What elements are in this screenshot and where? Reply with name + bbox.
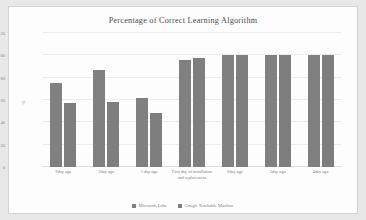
bar[interactable] <box>322 55 334 167</box>
bar-group <box>213 33 256 167</box>
y-axis-tick-label: 40 <box>0 120 5 125</box>
x-axis-tick-label: 5day ago <box>256 169 299 181</box>
plot-area <box>42 33 342 167</box>
x-axis-tick-label: 1 day ago <box>128 169 171 181</box>
bar-group <box>85 33 128 167</box>
bar-group <box>171 33 214 167</box>
bar[interactable] <box>50 83 62 167</box>
chart-legend: Microsoft LobeGoogle Teachable Machine <box>9 203 357 208</box>
legend-item[interactable]: Google Teachable Machine <box>178 203 234 208</box>
legend-swatch-icon <box>132 204 136 208</box>
y-axis-tick-label: 80 <box>0 75 5 80</box>
legend-label: Google Teachable Machine <box>184 203 233 208</box>
x-axis-tick-label: 2day ago <box>85 169 128 181</box>
bar-group <box>42 33 85 167</box>
bar[interactable] <box>265 55 277 167</box>
bar[interactable] <box>193 58 205 167</box>
y-axis-tick-label: 120 <box>0 31 5 36</box>
x-axis-tick-label: 9day ago <box>42 169 85 181</box>
x-axis-tick-labels: 9day ago2day ago1 day agoFirst day of in… <box>42 169 342 181</box>
y-axis-tick-label: 0 <box>3 165 5 170</box>
bar[interactable] <box>150 113 162 167</box>
bar[interactable] <box>179 60 191 167</box>
chart-card: Percentage of Correct Learning Algorithm… <box>8 6 358 214</box>
y-axis-tick-label: 20 <box>0 142 5 147</box>
bar-group <box>128 33 171 167</box>
bar[interactable] <box>279 55 291 167</box>
bars-layer <box>42 33 342 167</box>
bar[interactable] <box>236 55 248 167</box>
y-axis-tick-labels: 120100806040200 <box>0 33 7 167</box>
bar[interactable] <box>93 70 105 167</box>
chart-title: Percentage of Correct Learning Algorithm <box>9 16 357 25</box>
legend-label: Microsoft Lobe <box>139 203 167 208</box>
bar[interactable] <box>64 103 76 167</box>
x-axis-tick-label: 6day ago <box>213 169 256 181</box>
y-axis-tick-label: 60 <box>0 98 5 103</box>
bar-group <box>299 33 342 167</box>
bar[interactable] <box>107 102 119 167</box>
bar[interactable] <box>136 98 148 167</box>
y-axis-tick-label: 100 <box>0 53 5 58</box>
bar[interactable] <box>222 55 234 167</box>
y-axis-title: % <box>21 101 26 105</box>
x-axis-tick-label: 4day ago <box>299 169 342 181</box>
x-axis-tick-label: First day of installation and replacemen… <box>171 169 214 181</box>
bar-group <box>256 33 299 167</box>
legend-swatch-icon <box>178 204 182 208</box>
bar[interactable] <box>308 55 320 167</box>
legend-item[interactable]: Microsoft Lobe <box>132 203 167 208</box>
